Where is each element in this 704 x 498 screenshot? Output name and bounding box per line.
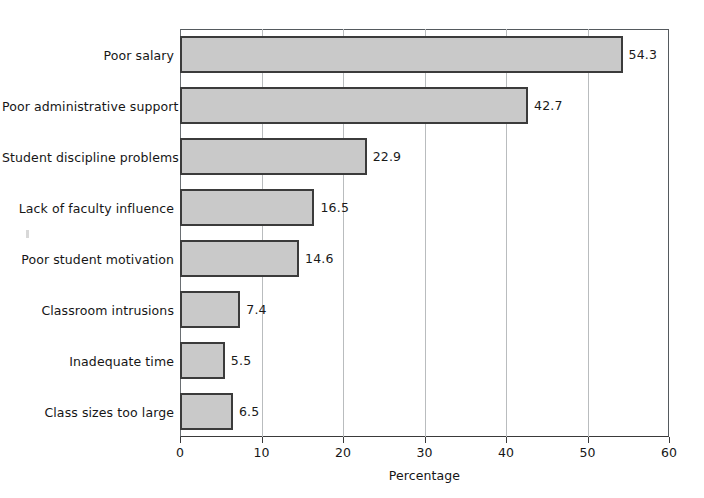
x-tick-label-60: 60 (661, 445, 677, 460)
category-label: Poor salary (2, 47, 174, 62)
bar-row: 42.7 (180, 87, 669, 124)
bar-chart: 54.342.722.916.514.67.45.56.5 Poor salar… (0, 0, 704, 498)
bar-value-label: 7.4 (246, 302, 266, 317)
bar (180, 393, 233, 430)
x-tick-mark-60 (669, 437, 670, 443)
bar-row: 14.6 (180, 240, 669, 277)
bar-value-label: 42.7 (534, 98, 563, 113)
category-label: Student discipline problems (2, 149, 174, 164)
category-label: Poor student motivation (2, 251, 174, 266)
x-tick-mark-50 (588, 437, 589, 443)
bar-value-label: 5.5 (231, 353, 251, 368)
x-tick-label-40: 40 (498, 445, 514, 460)
category-label: Class sizes too large (2, 404, 174, 419)
bar-value-label: 6.5 (239, 404, 259, 419)
x-tick-label-20: 20 (335, 445, 351, 460)
bar-row: 16.5 (180, 189, 669, 226)
x-tick-label-10: 10 (254, 445, 270, 460)
bar (180, 342, 225, 379)
bar-row: 7.4 (180, 291, 669, 328)
bar-value-label: 16.5 (320, 200, 349, 215)
x-tick-label-0: 0 (176, 445, 184, 460)
x-tick-label-30: 30 (417, 445, 433, 460)
category-label: Inadequate time (2, 353, 174, 368)
category-label: Lack of faculty influence (2, 200, 174, 215)
x-axis-title: Percentage (180, 468, 669, 483)
bar (180, 240, 299, 277)
category-label: Classroom intrusions (2, 302, 174, 317)
x-tick-mark-10 (262, 437, 263, 443)
bars-group: 54.342.722.916.514.67.45.56.5 (180, 29, 669, 437)
bar-value-label: 22.9 (373, 149, 402, 164)
bar-row: 6.5 (180, 393, 669, 430)
bar-row: 22.9 (180, 138, 669, 175)
bar (180, 87, 528, 124)
x-tick-mark-30 (425, 437, 426, 443)
x-tick-mark-40 (506, 437, 507, 443)
category-labels-group: Poor salaryPoor administrative supportSt… (0, 29, 174, 437)
bar-value-label: 14.6 (305, 251, 334, 266)
bar-row: 5.5 (180, 342, 669, 379)
bar (180, 291, 240, 328)
bar-row: 54.3 (180, 36, 669, 73)
category-label: Poor administrative support (2, 98, 174, 113)
x-tick-label-50: 50 (580, 445, 596, 460)
bar-value-label: 54.3 (629, 47, 658, 62)
bar (180, 36, 623, 73)
bar (180, 138, 367, 175)
x-tick-mark-0 (180, 437, 181, 443)
x-tick-mark-20 (343, 437, 344, 443)
bar (180, 189, 314, 226)
